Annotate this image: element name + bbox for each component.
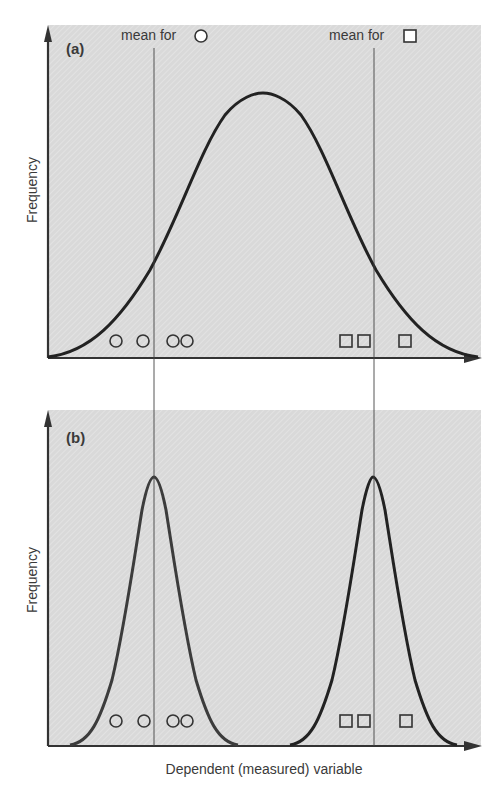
square-legend-icon	[404, 30, 416, 42]
mean-square-label: mean for	[329, 27, 385, 43]
mean-circle-label: mean for	[121, 27, 177, 43]
panel-b: (b) Frequency Dependent (measured) varia…	[24, 410, 482, 777]
panel-b-background	[48, 410, 481, 746]
panel-b-label: (b)	[66, 429, 85, 446]
y-axis-label-a: Frequency	[24, 157, 40, 223]
x-axis-label: Dependent (measured) variable	[166, 761, 363, 777]
panel-a: (a) mean for mean for Frequency	[24, 25, 482, 363]
y-axis-label-b: Frequency	[24, 547, 40, 613]
circle-legend-icon	[195, 30, 207, 42]
panel-a-label: (a)	[66, 40, 84, 57]
panel-a-background	[48, 25, 481, 358]
figure: (a) mean for mean for Frequency (b) Freq…	[0, 0, 499, 786]
